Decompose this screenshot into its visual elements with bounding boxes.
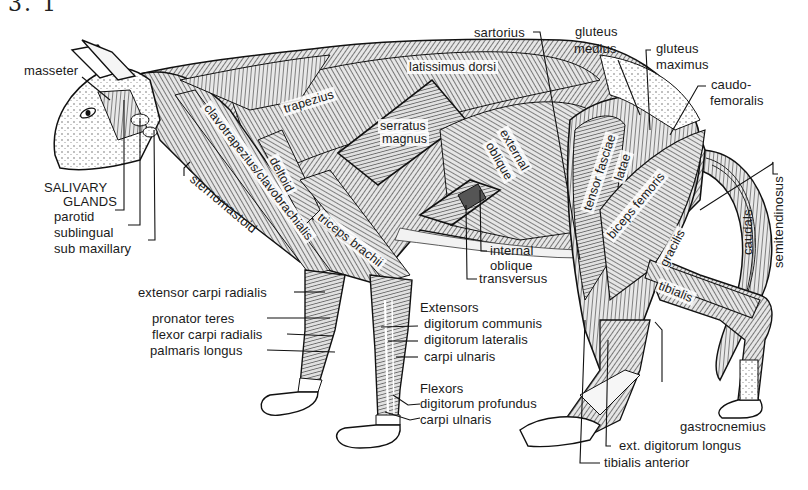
label-palmaris-longus: palmaris longus — [150, 344, 243, 358]
fore-legs — [261, 270, 412, 448]
label-parotid: parotid — [54, 210, 94, 224]
label-pronator-teres: pronator teres — [152, 312, 234, 326]
label-caudals: caudals — [741, 209, 755, 255]
label-internal-oblique-line1: internal — [490, 244, 533, 258]
label-gastrocnemius: gastrocnemius — [680, 420, 766, 434]
label-extensor-carpi-radialis: extensor carpi radialis — [138, 286, 267, 300]
label-gluteus-maximus-line1: gluteus — [656, 42, 699, 56]
label-carpi-ulnaris-extensor: carpi ulnaris — [424, 350, 495, 364]
label-sub-maxillary: sub maxillary — [54, 242, 131, 256]
label-serratus-line1: serratus — [378, 119, 428, 133]
label-digitorum-lateralis: digitorum lateralis — [424, 333, 528, 347]
label-caudofemoralis-line2: femoralis — [710, 94, 764, 108]
label-transversus: transversus — [479, 272, 547, 286]
label-carpi-ulnaris-flexor: carpi ulnaris — [420, 413, 491, 427]
label-tibialis-anterior: tibialis anterior — [604, 456, 690, 470]
label-masseter: masseter — [24, 64, 78, 78]
label-gluteus-medius-line2: medius — [574, 42, 617, 56]
label-sartorius: sartorius — [474, 26, 525, 40]
head — [54, 40, 160, 170]
label-sublingual: sublingual — [54, 226, 114, 240]
label-gluteus-maximus-line2: maximus — [656, 58, 709, 72]
label-salivary-glands-line2: GLANDS — [63, 195, 117, 209]
label-serratus-line2: magnus — [380, 132, 429, 146]
label-extensors-heading: Extensors — [420, 301, 479, 315]
cat-muscle-diagram: 3. 1 — [0, 0, 808, 490]
label-salivary-glands-line1: SALIVARY — [44, 181, 107, 195]
label-digitorum-profundus: digitorum profundus — [420, 397, 537, 411]
label-ext-digitorum-longus: ext. digitorum longus — [619, 439, 741, 453]
label-flexor-carpi-radialis: flexor carpi radialis — [152, 328, 262, 342]
label-flexors-heading: Flexors — [420, 382, 463, 396]
label-latissimus-dorsi: latissimus dorsi — [407, 60, 498, 74]
label-gluteus-medius-line1: gluteus — [575, 25, 618, 39]
label-semitendinosus: semitendinosus — [772, 176, 786, 268]
label-digitorum-communis: digitorum communis — [424, 317, 542, 331]
label-caudofemoralis-line1: caudo- — [711, 78, 751, 92]
